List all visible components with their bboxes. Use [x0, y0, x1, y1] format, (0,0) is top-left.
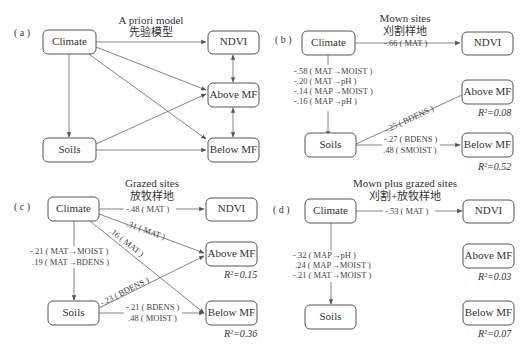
r2-below: R²=0.07	[477, 328, 512, 339]
node-label: Soils	[319, 310, 341, 322]
panel-d: ( d ) Mown plus grazed sites 刈割+放牧样地 -.5…	[273, 177, 514, 339]
node-label: NDVI	[474, 36, 502, 48]
node-below-mf: Below MF	[462, 133, 513, 157]
node-ndvi: NDVI	[208, 31, 259, 54]
sem-diagram: ( a ) A priori model 先验模型 Climate Soils …	[0, 0, 529, 347]
node-above-mf: Above MF	[462, 80, 513, 104]
svg-text:-.21 ( MAT→MOIST ): -.21 ( MAT→MOIST )	[30, 246, 108, 256]
coef-climate-soils: -.21 ( MAT→MOIST ) .19 ( MAT→BDENS )	[30, 246, 115, 268]
node-label: Soils	[319, 138, 341, 150]
svg-text:-.32 ( MAP→pH ): -.32 ( MAP→pH )	[293, 250, 356, 260]
node-ndvi: NDVI	[462, 32, 513, 55]
panel-title-zh: 刈割+放牧样地	[369, 189, 441, 202]
node-label: Soils	[62, 306, 84, 318]
svg-text:.24 ( MAP→MOIST ): .24 ( MAP→MOIST )	[295, 260, 371, 270]
node-climate: Climate	[305, 199, 356, 223]
coef-climate-soils: -.58 ( MAT→MOIST ) -.20 ( MAT→pH ) -.14 …	[294, 65, 384, 111]
panel-label: ( a )	[14, 27, 30, 39]
svg-text:-.58 ( MAT→MOIST ): -.58 ( MAT→MOIST )	[294, 66, 372, 76]
panel-label: ( b )	[275, 34, 292, 46]
panel-title-en: Grazed sites	[125, 177, 179, 189]
r2-above: R²=0.03	[477, 271, 511, 282]
node-label: Below MF	[210, 143, 257, 155]
coef-climate-soils: -.32 ( MAP→pH ) .24 ( MAP→MOIST ) -.21 (…	[292, 250, 378, 282]
coef-soils-below: .48 ( SMOIST )	[383, 145, 437, 155]
panel-label: ( c )	[14, 201, 30, 213]
r2-above: R²=0.15	[223, 269, 257, 280]
coef-soils-above: -.25 ( BDENS )	[383, 103, 436, 135]
svg-text:-.21 ( MAT→MOIST ): -.21 ( MAT→MOIST )	[293, 270, 371, 280]
node-label: Above MF	[464, 85, 512, 97]
panel-title-zh: 放牧样地	[130, 189, 174, 202]
node-label: Above MF	[210, 88, 258, 100]
svg-text:-.14 ( MAP→MOIST ): -.14 ( MAP→MOIST )	[294, 86, 373, 96]
coef-soils-below: .48 ( MOIST )	[128, 313, 177, 323]
coef-climate-ndvi: -.48 ( MAT )	[126, 204, 169, 214]
node-label: Climate	[311, 36, 346, 48]
node-soils: Soils	[43, 138, 96, 162]
node-label: Below MF	[208, 306, 255, 318]
panel-title-zh: 先验模型	[129, 25, 173, 38]
node-climate: Climate	[43, 30, 96, 54]
edge-climate-below	[86, 52, 206, 139]
coef-soils-below: -.21 ( BDENS )	[126, 302, 180, 312]
node-ndvi: NDVI	[206, 198, 257, 221]
node-soils: Soils	[305, 305, 356, 329]
edge-soils-above	[96, 94, 206, 144]
svg-text:-.20 ( MAT→pH ): -.20 ( MAT→pH )	[294, 76, 356, 86]
node-soils: Soils	[305, 133, 356, 157]
coef-climate-ndvi: -.66 ( MAT )	[384, 38, 427, 48]
node-label: Soils	[58, 143, 80, 155]
svg-text:.19 ( MAT→BDENS ): .19 ( MAT→BDENS )	[32, 257, 109, 267]
panel-title-en: Mown plus grazed sites	[353, 177, 457, 189]
r2-below: R²=0.52	[477, 161, 511, 172]
panel-title-en: Mown sites	[379, 12, 430, 24]
edge-climate-above	[96, 47, 206, 90]
coef-soils-below: -.27 ( BDENS )	[384, 134, 438, 144]
node-label: Below MF	[464, 138, 511, 150]
node-label: Below MF	[465, 306, 512, 318]
node-above-mf: Above MF	[206, 242, 257, 266]
svg-text:-.16 ( MAP→pH ): -.16 ( MAP→pH )	[294, 96, 357, 106]
node-label: Above MF	[465, 249, 513, 261]
node-label: NDVI	[218, 202, 246, 214]
node-below-mf: Below MF	[463, 301, 514, 325]
node-label: Above MF	[208, 247, 256, 259]
node-below-mf: Below MF	[206, 301, 257, 325]
panel-title-en: A priori model	[119, 14, 184, 26]
coef-climate-ndvi: -.53 ( MAT )	[385, 206, 428, 216]
node-label: Climate	[56, 202, 91, 214]
node-soils: Soils	[48, 301, 99, 325]
r2-below: R²=0.36	[223, 328, 257, 339]
node-above-mf: Above MF	[208, 83, 259, 107]
panel-c: ( c ) Grazed sites 放牧样地 -.48 ( MAT ) .31…	[14, 177, 257, 339]
panel-b: ( b ) Mown sites 刈割样地 -.66 ( MAT ) -.58 …	[275, 12, 513, 172]
node-climate: Climate	[48, 197, 99, 221]
node-label: Climate	[313, 204, 348, 216]
panel-a: ( a ) A priori model 先验模型 Climate Soils …	[14, 14, 259, 162]
node-above-mf: Above MF	[463, 244, 514, 268]
node-climate: Climate	[302, 31, 355, 55]
node-below-mf: Below MF	[208, 138, 259, 162]
panel-label: ( d )	[273, 204, 290, 216]
r2-above: R²=0.08	[477, 107, 511, 118]
node-label: NDVI	[475, 204, 503, 216]
panel-title-zh: 刈割样地	[383, 24, 427, 37]
node-ndvi: NDVI	[463, 200, 514, 223]
node-label: Climate	[52, 35, 87, 47]
node-label: NDVI	[220, 35, 248, 47]
